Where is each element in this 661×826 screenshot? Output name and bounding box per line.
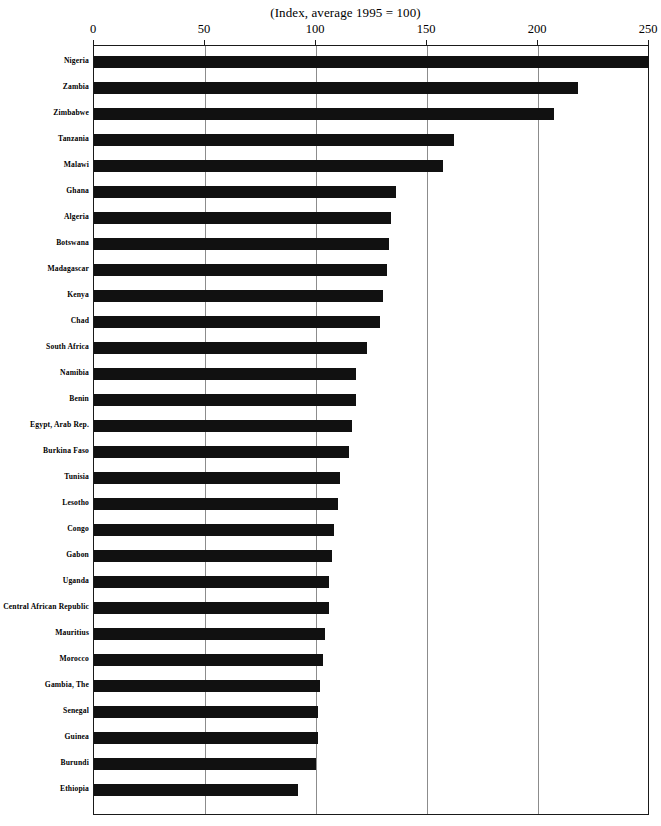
x-axis-tick-labels: 050100150200250 [0, 22, 661, 40]
bar [94, 498, 338, 510]
category-label: Malawi [0, 159, 89, 171]
bar [94, 160, 443, 172]
x-tick-label: 0 [90, 22, 96, 37]
bar [94, 706, 318, 718]
bar [94, 472, 340, 484]
x-tick-label: 50 [198, 22, 211, 37]
category-label: Uganda [0, 575, 89, 587]
category-label: Ghana [0, 185, 89, 197]
bar [94, 420, 352, 432]
category-label: Central African Republic [0, 601, 89, 613]
category-label: Mauritius [0, 627, 89, 639]
category-label: Egypt, Arab Rep. [0, 419, 89, 431]
x-tick-label: 250 [639, 22, 658, 37]
bar [94, 758, 316, 770]
category-label: Burundi [0, 757, 89, 769]
bar [94, 550, 332, 562]
bar [94, 394, 356, 406]
category-label: Zimbabwe [0, 107, 89, 119]
category-label: Lesotho [0, 497, 89, 509]
bar [94, 628, 325, 640]
category-label: Tanzania [0, 133, 89, 145]
x-tick-label: 100 [306, 22, 325, 37]
category-label: Senegal [0, 705, 89, 717]
bar [94, 212, 391, 224]
category-label: Madagascar [0, 263, 89, 275]
bar-chart: (Index, average 1995 = 100) 050100150200… [0, 0, 661, 826]
bar [94, 602, 329, 614]
bar [94, 524, 334, 536]
category-label: Congo [0, 523, 89, 535]
category-label: Gambia, The [0, 679, 89, 691]
bar [94, 654, 323, 666]
bar [94, 784, 298, 796]
bar [94, 576, 329, 588]
x-tick-label: 200 [528, 22, 547, 37]
bar [94, 238, 389, 250]
bar [94, 732, 318, 744]
bar [94, 680, 320, 692]
bar [94, 290, 383, 302]
category-label: Burkina Faso [0, 445, 89, 457]
x-tick-label: 150 [417, 22, 436, 37]
bar [94, 186, 396, 198]
bar [94, 108, 554, 120]
chart-title: (Index, average 1995 = 100) [0, 5, 661, 21]
bar [94, 368, 356, 380]
bar [94, 56, 649, 68]
category-label: Chad [0, 315, 89, 327]
category-label: Guinea [0, 731, 89, 743]
category-label: Benin [0, 393, 89, 405]
category-label: Zambia [0, 81, 89, 93]
bar [94, 264, 387, 276]
gridline [538, 46, 539, 814]
category-label: Kenya [0, 289, 89, 301]
bar [94, 134, 454, 146]
category-label: Ethiopia [0, 783, 89, 795]
category-label: Gabon [0, 549, 89, 561]
bar [94, 446, 349, 458]
plot-area [93, 45, 649, 815]
category-label: Tunisia [0, 471, 89, 483]
category-label: Namibia [0, 367, 89, 379]
bar [94, 342, 367, 354]
category-label: Nigeria [0, 55, 89, 67]
bar [94, 316, 380, 328]
category-label: Algeria [0, 211, 89, 223]
category-label: Botswana [0, 237, 89, 249]
bar [94, 82, 578, 94]
y-axis-category-labels: NigeriaZambiaZimbabweTanzaniaMalawiGhana… [0, 45, 89, 815]
category-label: South Africa [0, 341, 89, 353]
category-label: Morocco [0, 653, 89, 665]
